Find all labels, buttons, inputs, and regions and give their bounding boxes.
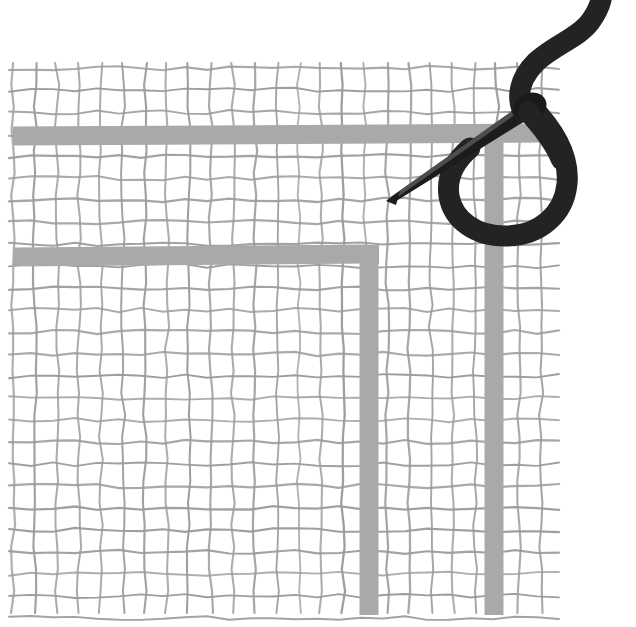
lower-horizontal-stitch xyxy=(13,254,369,257)
stitch-corner-joint xyxy=(360,245,379,264)
needle-and-thread-illustration xyxy=(0,0,636,627)
upper-horizontal-stitch xyxy=(13,133,557,136)
illustration-stage xyxy=(0,0,636,627)
